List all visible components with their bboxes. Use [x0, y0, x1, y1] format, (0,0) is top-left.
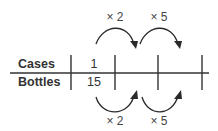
cases-value-1: 1: [91, 57, 98, 71]
bottom-arc-arrow-2: [142, 90, 182, 112]
row-label-bottles: Bottles: [18, 75, 60, 89]
top-arc-arrow-1: [96, 28, 138, 49]
bottles-value-1: 15: [87, 75, 101, 89]
row-label-cases: Cases: [18, 57, 55, 71]
arrowhead-icon: [174, 90, 182, 99]
top-op-label-1: × 2: [106, 10, 123, 24]
ratio-table-diagram: Cases Bottles 1 15 × 2 × 5 × 2 × 5: [0, 0, 218, 131]
bottom-arc-arrow-1: [96, 90, 138, 112]
top-op-label-2: × 5: [150, 10, 167, 24]
arrowhead-icon: [174, 41, 182, 49]
top-arc-arrow-2: [140, 28, 182, 49]
arrowhead-icon: [130, 90, 138, 99]
bottom-op-label-2: × 5: [150, 114, 167, 128]
bottom-op-label-1: × 2: [106, 114, 123, 128]
arrowhead-icon: [130, 41, 138, 49]
